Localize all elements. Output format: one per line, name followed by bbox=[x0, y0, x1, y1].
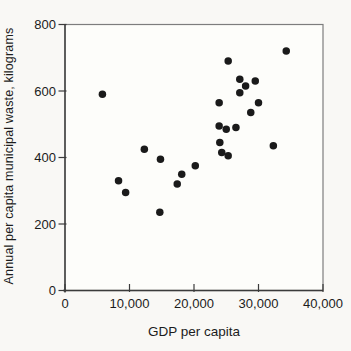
data-point bbox=[224, 152, 232, 160]
y-tick-label: 200 bbox=[34, 217, 56, 232]
data-point bbox=[215, 99, 223, 107]
data-point bbox=[247, 109, 255, 117]
data-point bbox=[236, 89, 244, 97]
data-point bbox=[232, 124, 240, 132]
data-point bbox=[223, 125, 231, 133]
data-point bbox=[157, 155, 165, 163]
y-tick-label: 600 bbox=[34, 84, 56, 99]
data-point bbox=[242, 82, 250, 90]
data-point bbox=[173, 180, 181, 188]
data-point bbox=[122, 189, 130, 197]
y-tick-label: 400 bbox=[34, 150, 56, 165]
y-tick-label: 0 bbox=[49, 283, 56, 298]
data-point bbox=[215, 122, 223, 130]
data-point bbox=[115, 177, 123, 185]
x-tick-label: 40,000 bbox=[303, 296, 343, 311]
data-point bbox=[224, 57, 232, 64]
data-point bbox=[141, 145, 149, 153]
data-point bbox=[192, 162, 200, 170]
data-point bbox=[218, 149, 226, 157]
scatter-figure: 010,00020,00030,00040,0000200400600800 A… bbox=[0, 0, 351, 351]
data-point bbox=[216, 139, 224, 147]
data-point bbox=[236, 76, 244, 84]
x-axis-title: GDP per capita bbox=[94, 324, 294, 339]
x-tick-label: 20,000 bbox=[174, 296, 214, 311]
x-tick-label: 30,000 bbox=[239, 296, 279, 311]
x-tick-label: 0 bbox=[61, 296, 68, 311]
data-point bbox=[255, 99, 263, 107]
y-tick-label: 800 bbox=[34, 17, 56, 32]
plot-canvas: 010,00020,00030,00040,0000200400600800 bbox=[0, 0, 351, 351]
data-point bbox=[252, 77, 260, 85]
data-point bbox=[156, 209, 164, 217]
data-point bbox=[178, 170, 186, 178]
y-axis-title: Annual per capita municipal waste, kilog… bbox=[2, 23, 16, 289]
data-point bbox=[270, 142, 278, 150]
data-point bbox=[282, 47, 290, 55]
plot-area bbox=[65, 25, 323, 291]
data-point bbox=[99, 91, 107, 99]
x-tick-label: 10,000 bbox=[110, 296, 150, 311]
